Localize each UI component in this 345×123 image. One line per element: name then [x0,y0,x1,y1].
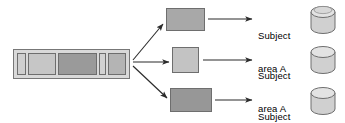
source-segment-1 [17,53,26,75]
diagram-canvas: Subject area A Subject area A Subject ar… [0,0,345,123]
subject-label-1-line1: Subject [258,30,290,41]
source-data-bar [13,49,130,79]
arrow-split-up [133,24,163,60]
database-cylinder-3 [308,86,338,116]
source-segment-2 [28,53,56,75]
subject-label-2-line1: Subject [258,70,290,81]
source-segment-5 [108,53,126,75]
subject-box-1 [166,8,205,31]
source-segment-3 [58,53,97,75]
database-cylinder-2 [308,45,338,75]
arrow-split-down [133,66,167,98]
subject-label-3-line1: Subject [258,111,290,122]
subject-box-2 [172,47,199,73]
database-cylinder-1 [308,5,338,35]
source-segment-4 [99,53,106,75]
subject-box-3 [170,88,212,112]
subject-label-3: Subject area A [258,89,290,123]
